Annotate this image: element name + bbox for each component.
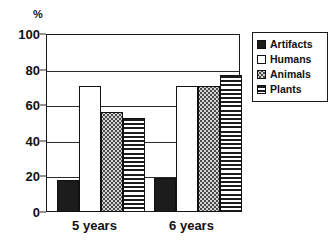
legend-item-artifacts: Artifacts	[257, 37, 324, 52]
bar-plants-6-years	[220, 75, 242, 212]
legend-label: Humans	[270, 54, 311, 65]
legend-swatch-icon	[257, 55, 266, 64]
legend-label: Artifacts	[270, 39, 313, 50]
bar-animals-5-years	[101, 112, 123, 212]
bar-artifacts-6-years	[154, 178, 176, 212]
y-tick-label: 20	[6, 169, 40, 184]
bar-chart: % 020406080100 5 years6 years ArtifactsH…	[0, 0, 332, 244]
legend-label: Plants	[270, 84, 302, 95]
bar-artifacts-5-years	[57, 180, 79, 212]
legend-item-animals: Animals	[257, 67, 324, 82]
y-tick-label: 40	[6, 133, 40, 148]
y-tick-label: 100	[6, 27, 40, 42]
y-axis-unit-label: %	[33, 8, 43, 20]
x-axis-label: 6 years	[152, 218, 232, 233]
legend-swatch-icon	[257, 85, 266, 94]
x-axis-label: 5 years	[55, 218, 135, 233]
bar-humans-5-years	[79, 86, 101, 212]
y-tick-label: 80	[6, 62, 40, 77]
bar-humans-6-years	[176, 86, 198, 212]
y-tick-label: 0	[6, 205, 40, 220]
y-tick-label: 60	[6, 98, 40, 113]
legend-swatch-icon	[257, 70, 266, 79]
legend-item-plants: Plants	[257, 82, 324, 97]
legend-item-humans: Humans	[257, 52, 324, 67]
bar-animals-6-years	[198, 86, 220, 212]
y-axis-ticks: 020406080100	[0, 34, 40, 212]
bar-plants-5-years	[123, 118, 145, 212]
bars-layer	[46, 34, 240, 212]
legend-swatch-icon	[257, 40, 266, 49]
legend-label: Animals	[270, 69, 311, 80]
legend: ArtifactsHumansAnimalsPlants	[252, 32, 328, 102]
